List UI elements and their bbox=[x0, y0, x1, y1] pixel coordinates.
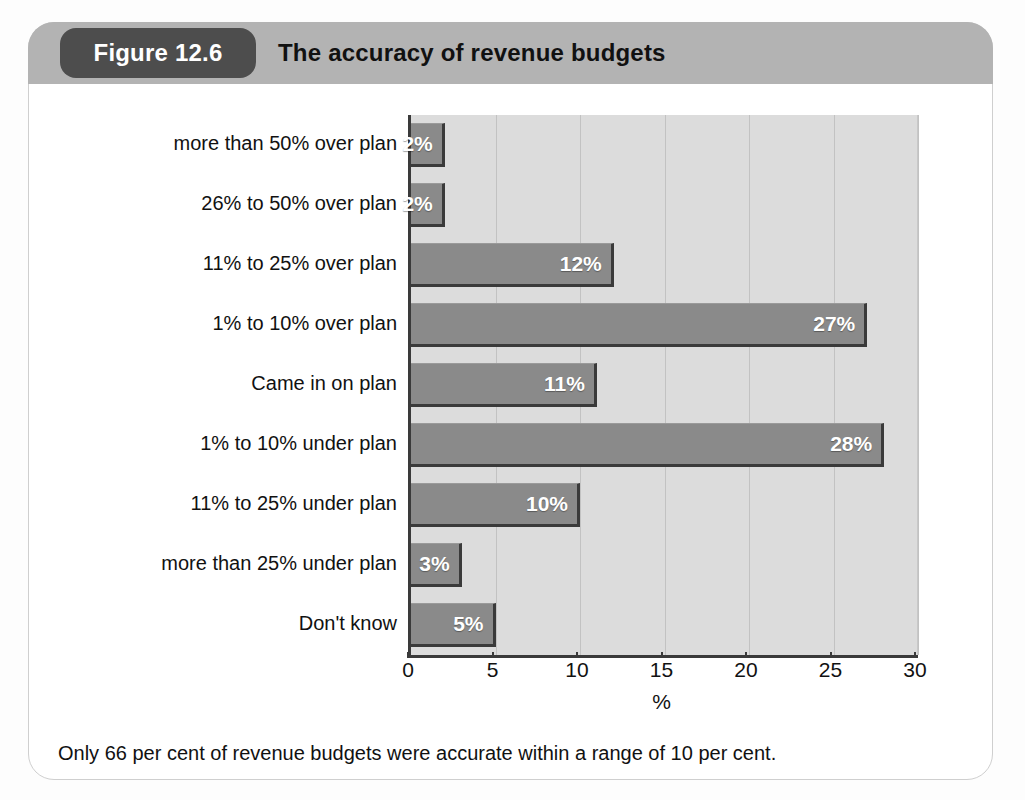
bar-value-label: 11% bbox=[544, 372, 594, 396]
figure-header: Figure 12.6 The accuracy of revenue budg… bbox=[28, 22, 993, 84]
bar-value-label: 5% bbox=[453, 612, 492, 636]
bar-row: 27% bbox=[411, 295, 918, 355]
bar-row: 11% bbox=[411, 355, 918, 415]
category-label: more than 50% over plan bbox=[37, 132, 397, 155]
bar-value-label: 10% bbox=[526, 492, 577, 516]
bar[interactable]: 12% bbox=[411, 243, 614, 287]
x-tick-mark bbox=[745, 652, 747, 658]
x-tick-label: 20 bbox=[734, 658, 757, 682]
x-tick-mark bbox=[492, 652, 494, 658]
category-label: 1% to 10% under plan bbox=[37, 432, 397, 455]
x-tick-mark bbox=[576, 652, 578, 658]
x-tick-mark bbox=[914, 652, 916, 658]
x-tick-label: 15 bbox=[650, 658, 673, 682]
category-label: Don't know bbox=[37, 612, 397, 635]
category-label: 26% to 50% over plan bbox=[37, 192, 397, 215]
chart-area: more than 50% over plan26% to 50% over p… bbox=[29, 84, 992, 720]
category-label: 11% to 25% under plan bbox=[37, 492, 397, 515]
plot-area: 2%2%12%27%11%28%10%3%5% bbox=[408, 115, 918, 658]
x-tick-mark bbox=[407, 652, 409, 658]
figure-caption: Only 66 per cent of revenue budgets were… bbox=[58, 742, 958, 765]
gridline bbox=[918, 115, 919, 655]
bar[interactable]: 2% bbox=[411, 123, 445, 167]
figure-number-badge: Figure 12.6 bbox=[60, 28, 256, 78]
bar[interactable]: 10% bbox=[411, 483, 580, 527]
bar-value-label: 28% bbox=[830, 432, 881, 456]
category-label: 11% to 25% over plan bbox=[37, 252, 397, 275]
figure-title: The accuracy of revenue budgets bbox=[278, 22, 666, 84]
x-tick-label: 25 bbox=[819, 658, 842, 682]
bar-value-label: 2% bbox=[402, 192, 441, 216]
bar[interactable]: 2% bbox=[411, 183, 445, 227]
bar-value-label: 2% bbox=[402, 132, 441, 156]
figure-number-label: Figure 12.6 bbox=[94, 39, 223, 67]
bar-row: 2% bbox=[411, 115, 918, 175]
category-label: more than 25% under plan bbox=[37, 552, 397, 575]
bar-row: 3% bbox=[411, 535, 918, 595]
bar-row: 12% bbox=[411, 235, 918, 295]
x-tick-mark bbox=[661, 652, 663, 658]
bar[interactable]: 27% bbox=[411, 303, 867, 347]
bar-row: 2% bbox=[411, 175, 918, 235]
bar-value-label: 3% bbox=[419, 552, 458, 576]
bar[interactable]: 11% bbox=[411, 363, 597, 407]
bar-row: 28% bbox=[411, 415, 918, 475]
figure-page: Figure 12.6 The accuracy of revenue budg… bbox=[0, 0, 1025, 800]
x-axis-title: % bbox=[408, 690, 915, 714]
bar[interactable]: 3% bbox=[411, 543, 462, 587]
category-axis-labels: more than 50% over plan26% to 50% over p… bbox=[29, 115, 397, 655]
bar-row: 10% bbox=[411, 475, 918, 535]
bar[interactable]: 5% bbox=[411, 603, 496, 647]
x-tick-label: 30 bbox=[903, 658, 926, 682]
category-label: Came in on plan bbox=[37, 372, 397, 395]
bar-value-label: 27% bbox=[813, 312, 864, 336]
category-label: 1% to 10% over plan bbox=[37, 312, 397, 335]
bar-value-label: 12% bbox=[560, 252, 611, 276]
x-tick-label: 0 bbox=[402, 658, 414, 682]
bar[interactable]: 28% bbox=[411, 423, 884, 467]
x-tick-mark bbox=[830, 652, 832, 658]
bar-row: 5% bbox=[411, 595, 918, 655]
x-tick-label: 10 bbox=[565, 658, 588, 682]
x-tick-label: 5 bbox=[487, 658, 499, 682]
